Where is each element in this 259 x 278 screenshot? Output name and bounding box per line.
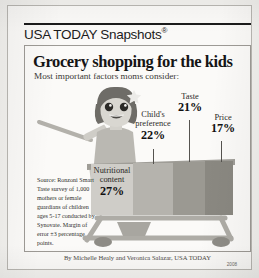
masthead-brand-text: USA TODAY Snapshots (24, 27, 161, 42)
credit-year: 2008 (24, 262, 237, 267)
bar-taste (173, 162, 205, 215)
registered-mark-icon: ® (161, 26, 167, 35)
masthead-brand: USA TODAY Snapshots® (24, 26, 251, 43)
callout-value: 17% (203, 122, 243, 136)
leader-line-price (221, 141, 222, 162)
leader-line-taste (189, 120, 190, 162)
masthead-rule (24, 23, 251, 25)
page-subtitle: Most important factors moms consider: (34, 71, 249, 81)
infographic-panel: Grocery shopping for the kids Most impor… (24, 45, 251, 252)
clipping-frame: USA TODAY Snapshots® Grocery shopping fo… (7, 5, 252, 270)
callout-taste: Taste 21% (168, 92, 212, 115)
cart-under-shelf (117, 222, 151, 236)
callout-price: Price 17% (203, 113, 243, 136)
bar-price (205, 161, 233, 215)
callout-value: 22% (129, 129, 177, 143)
cart-frame (85, 218, 231, 240)
source-note: Source: Ronzoni Smart Taste survey of 1,… (37, 176, 95, 248)
page-title: Grocery shopping for the kids (33, 52, 248, 72)
bar-childs-preference (133, 163, 173, 215)
leader-line-childs-preference (153, 149, 154, 164)
byline-credit: By Michelle Healy and Veronica Salazar, … (24, 254, 251, 261)
cart-handle (39, 122, 91, 140)
callout-label-line-1: Nutritional (87, 166, 137, 175)
snapshot-scan: USA TODAY Snapshots® Grocery shopping fo… (0, 0, 259, 278)
